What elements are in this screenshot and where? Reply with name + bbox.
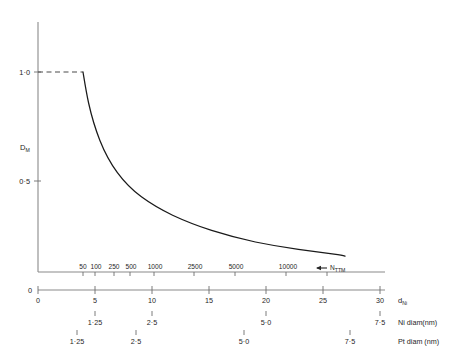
x-axis-ni-tick-labels: 1·25 2·5 5·0 7·5 xyxy=(88,318,385,327)
pt-row-label: Pt diam (nm) xyxy=(398,337,439,346)
y-tick-label-1-0: 1·0 xyxy=(19,68,30,77)
x-axis-pt-ticks xyxy=(77,330,350,335)
chart-figure: 1·0 0·5 0 DM 50 100 250 xyxy=(0,0,453,352)
x-axis-upper-ticks xyxy=(83,272,327,276)
y-axis-title: DM xyxy=(20,143,30,153)
upper-tick-label-2500: 2500 xyxy=(188,263,203,270)
ni-tick-label-2-5: 2·5 xyxy=(147,318,157,327)
upper-tick-label-10000: 10000 xyxy=(279,263,298,270)
pt-tick-label-2-5: 2·5 xyxy=(131,337,141,346)
ni-row-label: Ni diam(nm) xyxy=(398,318,437,327)
x-tick-label-25: 25 xyxy=(319,296,327,305)
y-tick-label-0-5: 0·5 xyxy=(19,177,30,186)
x-axis-primary-tick-labels: 0 5 10 15 20 25 30 xyxy=(36,296,384,305)
chart-canvas: 1·0 0·5 0 DM 50 100 250 xyxy=(0,0,453,352)
x-tick-label-5: 5 xyxy=(93,296,97,305)
ni-tick-label-1-25: 1·25 xyxy=(88,318,102,327)
x-tick-label-20: 20 xyxy=(262,296,270,305)
x-axis-ni-ticks xyxy=(95,311,380,316)
series-decay-curve xyxy=(83,72,345,256)
upper-tick-label-1000: 1000 xyxy=(148,263,163,270)
arrow-left-icon-head xyxy=(316,266,321,271)
x-axis-pt-tick-labels: 1·25 2·5 5·0 7·5 xyxy=(70,337,355,346)
upper-tick-label-100: 100 xyxy=(90,263,101,270)
plot-area: 1·0 0·5 0 DM 50 100 250 xyxy=(19,22,439,346)
upper-tick-label-5000: 5000 xyxy=(229,263,244,270)
x-axis-title: dNi xyxy=(398,296,407,306)
pt-tick-label-1-25: 1·25 xyxy=(70,337,84,346)
x-axis-upper-tick-labels: 50 100 250 500 1000 2500 5000 10000 xyxy=(79,263,297,270)
y-tick-label-0: 0 xyxy=(28,286,32,295)
pt-tick-label-5-0: 5·0 xyxy=(239,337,249,346)
ni-tick-label-5-0: 5·0 xyxy=(261,318,271,327)
x-tick-label-10: 10 xyxy=(148,296,156,305)
y-axis-tick-labels: 1·0 0·5 0 xyxy=(19,68,32,295)
upper-tick-label-250: 250 xyxy=(108,263,119,270)
upper-tick-label-500: 500 xyxy=(125,263,136,270)
x-tick-label-15: 15 xyxy=(205,296,213,305)
upper-tick-label-50: 50 xyxy=(79,263,87,270)
x-tick-label-30: 30 xyxy=(376,296,384,305)
pt-tick-label-7-5: 7·5 xyxy=(345,337,355,346)
x-tick-label-0: 0 xyxy=(36,296,40,305)
ni-tick-label-7-5: 7·5 xyxy=(375,318,385,327)
